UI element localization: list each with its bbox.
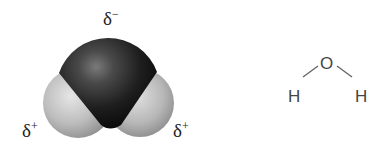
structural-hydrogen-left: H bbox=[288, 88, 300, 105]
bond-left bbox=[303, 66, 318, 77]
right-hydrogen-partial-charge-label: δ+ bbox=[173, 120, 189, 140]
bond-right bbox=[337, 66, 352, 77]
structural-hydrogen-right: H bbox=[355, 88, 367, 105]
structural-oxygen-atom: O bbox=[320, 55, 333, 72]
molecule-graphics bbox=[0, 0, 387, 148]
left-hydrogen-partial-charge-label: δ+ bbox=[22, 120, 38, 140]
oxygen-partial-charge-label: δ− bbox=[103, 8, 119, 28]
